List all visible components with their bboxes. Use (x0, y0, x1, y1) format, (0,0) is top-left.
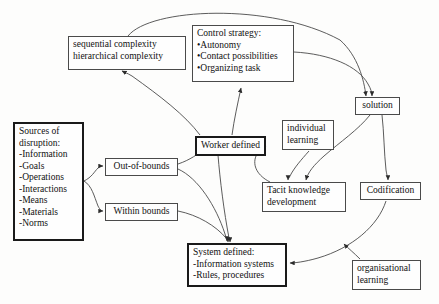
edge-worker-defined-to-system-defined (218, 155, 230, 242)
control-strategy-box-line: Control strategy: (197, 28, 289, 40)
edge-within-bounds-to-system-defined (178, 211, 228, 242)
edge-out-of-bounds-to-system-defined (178, 169, 227, 241)
tacit-knowledge-development-box-line: Tacit knowledge (267, 185, 341, 197)
sources-of-disruption-box-line: -Materials (19, 207, 78, 219)
organisational-learning-box-line: organisational (357, 263, 416, 275)
edge-organisational-learning-to-codification-path (344, 244, 360, 259)
edge-sources-to-out-of-bounds (84, 166, 103, 181)
solution-box: solution (355, 97, 400, 115)
edge-individual-learning-to-tacit-knowledge (288, 151, 309, 180)
sources-of-disruption-box: Sources ofdisruption:-Information-Goals-… (13, 122, 84, 241)
solution-box-line: solution (362, 100, 393, 112)
sources-of-disruption-box-line: -Operations (19, 172, 78, 184)
out-of-bounds-box: Out-of-bounds (105, 158, 178, 176)
complexity-box-line: hierarchical complexity (73, 51, 181, 63)
edge-sources-to-within-bounds (84, 181, 103, 211)
within-bounds-box: Within bounds (105, 203, 178, 221)
sources-of-disruption-box-line: -Means (19, 195, 78, 207)
sources-of-disruption-box-line: Sources of (19, 126, 78, 138)
out-of-bounds-box-line: Out-of-bounds (114, 161, 170, 173)
diagram-canvas: sequential complexityhierarchical comple… (0, 0, 439, 304)
system-defined-box-line: -Information systems (193, 259, 281, 271)
control-strategy-box-line: •Contact possibilities (197, 51, 289, 63)
individual-learning-box-line: learning (287, 135, 329, 147)
organisational-learning-box-line: learning (357, 275, 416, 287)
edge-control-strategy-to-solution (294, 52, 372, 96)
sources-of-disruption-box-line: -Interactions (19, 184, 78, 196)
control-strategy-box-line: •Organizing task (197, 63, 289, 75)
within-bounds-box-line: Within bounds (114, 206, 170, 218)
individual-learning-box-line: individual (287, 123, 329, 135)
complexity-box-line: sequential complexity (73, 39, 181, 51)
worker-defined-box: Worker defined (195, 136, 266, 156)
tacit-knowledge-development-box-line: development (267, 197, 341, 209)
individual-learning-box: individuallearning (282, 120, 334, 150)
complexity-box: sequential complexityhierarchical comple… (68, 36, 186, 70)
control-strategy-box-line: •Autonomy (197, 40, 289, 52)
edge-solution-to-codification (382, 115, 388, 180)
edge-worker-defined-to-complexity (122, 71, 200, 135)
worker-defined-box-line: Worker defined (201, 140, 260, 152)
organisational-learning-box: organisationallearning (352, 260, 421, 290)
sources-of-disruption-box-line: -Norms (19, 218, 78, 230)
system-defined-box-line: System defined: (193, 247, 281, 259)
sources-of-disruption-box-line: -Information (19, 149, 78, 161)
codification-box: Codification (360, 182, 421, 200)
sources-of-disruption-box-line: disruption: (19, 138, 78, 150)
codification-box-line: Codification (367, 185, 415, 197)
system-defined-box: System defined:-Information systems-Rule… (187, 243, 287, 287)
system-defined-box-line: -Rules, procedures (193, 270, 281, 282)
control-strategy-box: Control strategy:•Autonomy•Contact possi… (192, 25, 294, 82)
tacit-knowledge-development-box: Tacit knowledgedevelopment (262, 182, 346, 212)
edge-worker-defined-to-control-strategy (232, 88, 241, 135)
sources-of-disruption-box-line: -Goals (19, 161, 78, 173)
